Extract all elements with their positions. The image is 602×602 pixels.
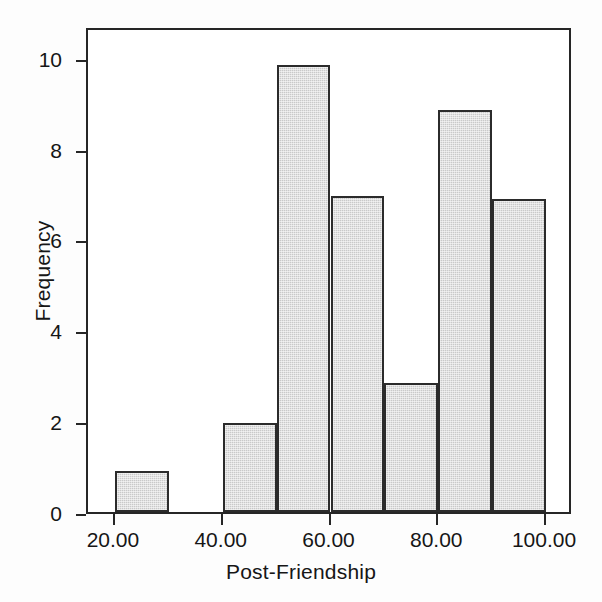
y-axis-tick-label: 0 <box>50 503 62 524</box>
x-axis-tick-label: 100.00 <box>512 528 576 552</box>
x-axis-tick <box>544 514 546 525</box>
x-axis-tick <box>436 514 438 525</box>
bars-layer <box>88 30 569 512</box>
y-axis-title: Frequency <box>31 151 55 391</box>
histogram-bar <box>492 199 546 512</box>
x-axis-tick <box>113 514 115 525</box>
x-axis-title: Post-Friendship <box>0 560 602 584</box>
x-axis-tick-label: 80.00 <box>410 528 463 552</box>
y-axis-tick <box>76 423 86 425</box>
histogram-bar <box>115 471 169 512</box>
y-axis-tick-label: 2 <box>50 412 62 433</box>
x-axis-tick-label: 40.00 <box>194 528 247 552</box>
y-axis-title-container: Frequency <box>8 28 38 514</box>
y-axis-tick <box>76 241 86 243</box>
histogram-bar <box>384 383 438 512</box>
y-axis-tick <box>76 514 86 516</box>
histogram-bar <box>331 196 385 512</box>
y-axis-tick <box>76 332 86 334</box>
histogram-bar <box>223 423 277 512</box>
histogram-figure: 0246810 Frequency 20.0040.0060.0080.0010… <box>0 0 602 602</box>
x-axis-tick-labels: 20.0040.0060.0080.00100.00 <box>0 528 602 558</box>
plot-area <box>86 28 571 514</box>
y-axis-tick <box>76 60 86 62</box>
y-axis-tick <box>76 151 86 153</box>
x-axis-tick-label: 60.00 <box>302 528 355 552</box>
histogram-bar <box>438 110 492 512</box>
y-axis-tick-label: 10 <box>39 49 62 70</box>
x-axis-tick <box>329 514 331 525</box>
x-axis-tick <box>221 514 223 525</box>
x-axis-tick-label: 20.00 <box>87 528 140 552</box>
histogram-bar <box>277 65 331 512</box>
x-axis-ticks <box>86 514 571 526</box>
